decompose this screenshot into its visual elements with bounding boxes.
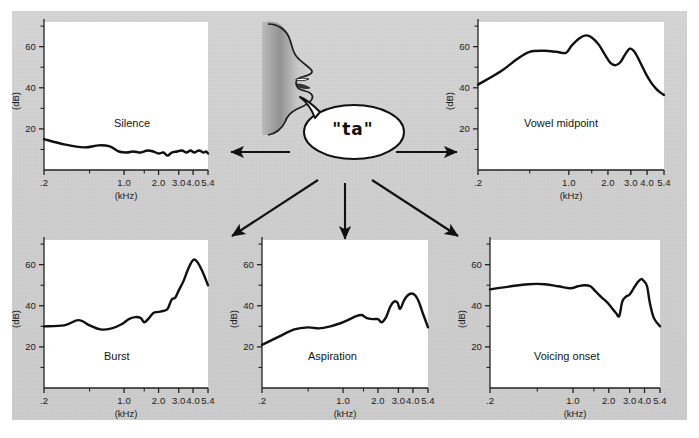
y-tick-label: 60 — [14, 41, 36, 52]
spectrum-curve — [478, 35, 664, 95]
chart-panel-vowel-midpoint: 204060.21.02.03.04.05.4(kHz)(dB)Vowel mi… — [478, 22, 664, 170]
y-tick-label: 60 — [460, 259, 482, 270]
panel-title: Burst — [104, 350, 130, 362]
x-axis-title: (kHz) — [44, 190, 208, 201]
figure-root: 204060.21.02.03.04.05.4(kHz)(dB)Silence2… — [0, 0, 699, 438]
y-tick-label: 20 — [14, 123, 36, 134]
y-tick-label: 20 — [14, 341, 36, 352]
x-axis-title: (kHz) — [490, 408, 660, 419]
spectrum-curve — [262, 293, 428, 344]
axes-and-curve — [44, 22, 238, 200]
chart-panel-silence: 204060.21.02.03.04.05.4(kHz)(dB)Silence — [44, 22, 208, 170]
y-axis-title: (dB) — [10, 310, 21, 328]
x-axis-title: (kHz) — [478, 190, 664, 201]
chart-panel-aspiration: 204060.21.02.03.04.05.4(kHz)(dB)Aspirati… — [262, 240, 428, 388]
y-axis-title: (dB) — [444, 92, 455, 110]
spectrum-curve — [44, 259, 208, 329]
axes-and-curve — [490, 240, 690, 418]
y-tick-label: 20 — [460, 341, 482, 352]
panel-title: Aspiration — [308, 350, 357, 362]
center-illustration: "ta" — [252, 18, 420, 176]
y-tick-label: 60 — [448, 41, 470, 52]
axes-and-curve — [262, 240, 458, 418]
y-tick-label: 20 — [448, 123, 470, 134]
spectrum-curve — [44, 139, 208, 155]
y-axis-title: (dB) — [456, 310, 467, 328]
axes-and-curve — [44, 240, 238, 418]
x-axis-title: (kHz) — [44, 408, 208, 419]
panel-title: Vowel midpoint — [524, 117, 598, 129]
y-tick-label: 20 — [232, 341, 254, 352]
panel-title: Voicing onset — [534, 350, 599, 362]
spectrum-curve — [490, 279, 660, 326]
x-axis-title: (kHz) — [262, 408, 428, 419]
y-axis-title: (dB) — [10, 92, 21, 110]
y-tick-label: 60 — [232, 259, 254, 270]
bubble-text: "ta" — [298, 96, 408, 162]
y-tick-label: 60 — [14, 259, 36, 270]
axes-and-curve — [478, 22, 694, 200]
y-axis-title: (dB) — [228, 310, 239, 328]
chart-panel-voicing-onset: 204060.21.02.03.04.05.4(kHz)(dB)Voicing … — [490, 240, 660, 388]
chart-panel-burst: 204060.21.02.03.04.05.4(kHz)(dB)Burst — [44, 240, 208, 388]
panel-title: Silence — [114, 117, 150, 129]
